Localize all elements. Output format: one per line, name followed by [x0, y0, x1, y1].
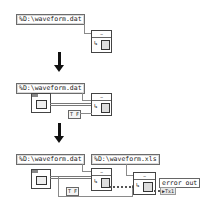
waveform-graph-icon [36, 176, 47, 185]
floppy-disk-icon [101, 103, 110, 113]
path-constant: %D:\waveform.dat [16, 154, 85, 165]
node-label: ~ [134, 173, 155, 180]
wire [58, 196, 133, 197]
read-waveform-node: ~ ↳ [91, 30, 112, 53]
down-arrow-head-icon [54, 136, 64, 143]
write-spreadsheet-node: ~ ↳ [133, 172, 156, 195]
boolean-constant: T F [66, 187, 79, 196]
error-out-terminal: ▶Tx1 [160, 187, 176, 195]
read-waveform-node: ~ ↳ [91, 93, 112, 116]
waveform-wire [50, 176, 92, 179]
read-waveform-node: ~ ↳ [91, 168, 112, 191]
waveform-graph-icon [36, 100, 47, 109]
arrow-in-icon: ↳ [136, 182, 140, 188]
arrow-in-icon: ↳ [94, 103, 98, 109]
waveform-control [31, 93, 51, 113]
control-tab [32, 170, 38, 173]
arrow-in-icon: ↳ [94, 40, 98, 46]
waveform-control [31, 169, 51, 189]
boolean-constant: T F [68, 110, 81, 119]
down-arrow-icon [58, 123, 61, 137]
node-label: ~ [92, 31, 111, 38]
control-tab [32, 94, 38, 97]
node-label: ~ [92, 94, 111, 101]
down-arrow-head-icon [54, 65, 64, 72]
arrow-in-icon: ↳ [94, 178, 98, 184]
down-arrow-icon [58, 52, 61, 66]
waveform-wire [50, 103, 92, 106]
error-wire [110, 186, 134, 188]
path-constant: %D:\waveform.dat [16, 14, 85, 25]
spreadsheet-icon [143, 182, 153, 192]
wire [58, 177, 59, 197]
node-label: ~ [92, 169, 111, 176]
floppy-disk-icon [101, 40, 110, 50]
floppy-disk-icon [101, 178, 110, 188]
wire [80, 113, 92, 114]
